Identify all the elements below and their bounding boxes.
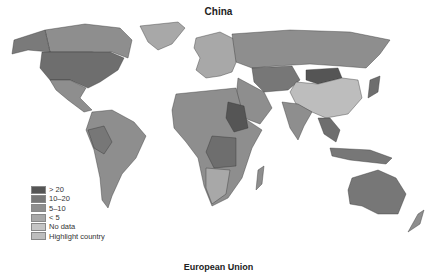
legend-label: 10–20 [49, 194, 70, 203]
legend-label: Highlight country [49, 232, 105, 241]
legend-label: No data [49, 222, 75, 231]
legend-swatch [31, 204, 46, 212]
legend-item: > 20 [31, 185, 105, 194]
legend-label: < 5 [49, 213, 60, 222]
legend-item: < 5 [31, 213, 105, 222]
next-map-title: European Union [0, 262, 437, 272]
region-indonesia [330, 148, 392, 164]
legend-label: > 20 [49, 185, 64, 194]
legend-item: No data [31, 222, 105, 231]
region-europe [194, 32, 238, 78]
map-title: China [0, 6, 437, 17]
region-australia [348, 170, 406, 214]
map-legend: > 20 10–20 5–10 < 5 No data Highlight co… [31, 185, 105, 241]
legend-swatch [31, 232, 46, 240]
legend-item: 10–20 [31, 194, 105, 203]
region-japan [368, 76, 380, 98]
region-greenland [140, 22, 185, 50]
legend-swatch [31, 223, 46, 231]
legend-swatch [31, 214, 46, 222]
region-madagascar [256, 166, 264, 190]
legend-item: 5–10 [31, 204, 105, 213]
region-alaska [12, 30, 50, 54]
legend-swatch [31, 195, 46, 203]
region-southeast-asia [318, 118, 340, 142]
legend-label: 5–10 [49, 204, 66, 213]
legend-item: Highlight country [31, 231, 105, 240]
region-new-zealand [408, 210, 424, 232]
legend-swatch [31, 186, 46, 194]
region-russia [232, 30, 390, 68]
